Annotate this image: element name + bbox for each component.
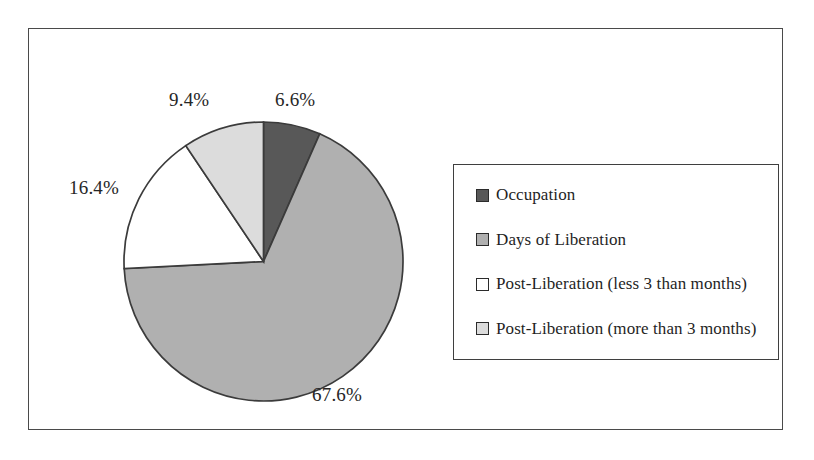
legend-label: Post-Liberation (more than 3 months) [496, 319, 756, 339]
slice-label-occupation: 6.6% [275, 89, 315, 111]
pie-chart [123, 121, 404, 402]
pie-slices [124, 122, 403, 401]
legend-item-days-of-liberation: Days of Liberation [476, 230, 778, 250]
legend-item-post-liberation-more-than-3-months: Post-Liberation (more than 3 months) [476, 319, 778, 339]
legend-item-occupation: Occupation [476, 185, 778, 205]
slice-label-post-liberation-less-3-months: 16.4% [69, 177, 119, 199]
legend-item-post-liberation-less-3-than-months: Post-Liberation (less 3 than months) [476, 274, 778, 294]
legend-label: Occupation [496, 185, 575, 205]
slice-label-post-liberation-more-3-months: 9.4% [169, 89, 209, 111]
slice-label-days-of-liberation: 67.6% [312, 384, 362, 406]
chart-figure: 6.6% 67.6% 16.4% 9.4% OccupationDays of … [0, 0, 814, 460]
legend-item-list: OccupationDays of LiberationPost-Liberat… [454, 165, 778, 359]
legend-swatch-icon-days-of-liberation [476, 233, 489, 246]
legend-swatch-icon-post-liberation-less-3-than-months [476, 278, 489, 291]
legend-swatch-icon-occupation [476, 189, 489, 202]
legend-swatch-icon-post-liberation-more-than-3-months [476, 322, 489, 335]
pie-svg [123, 121, 404, 402]
figure-frame-border: 6.6% 67.6% 16.4% 9.4% OccupationDays of … [28, 28, 783, 430]
chart-legend: OccupationDays of LiberationPost-Liberat… [453, 164, 779, 360]
legend-label: Days of Liberation [496, 230, 626, 250]
legend-label: Post-Liberation (less 3 than months) [496, 274, 747, 294]
